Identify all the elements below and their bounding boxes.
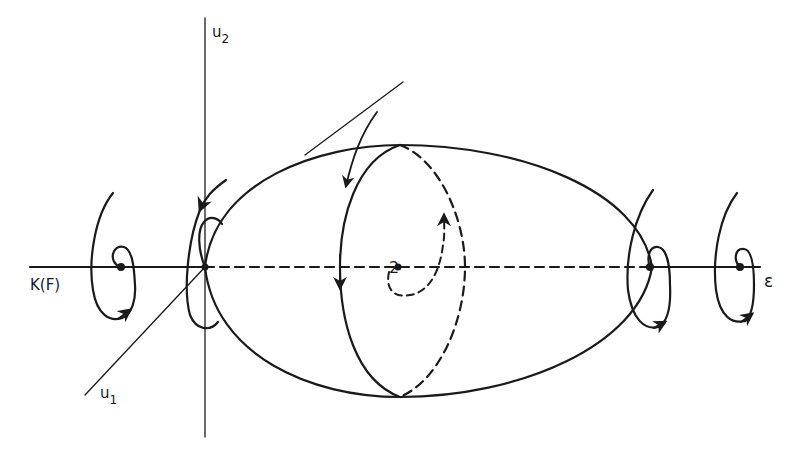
far-right-spiral [715, 193, 754, 322]
u2-label: u2 [212, 23, 229, 46]
center-dashed-spiral [388, 215, 444, 296]
center-label: 2 [389, 258, 399, 277]
far-left-spiral [91, 193, 135, 319]
diagram-svg: u2 u1 K(F) ε 2 [0, 0, 797, 449]
kf-label: K(F) [30, 276, 60, 294]
u1-label: u1 [100, 384, 117, 407]
diagram-canvas: u2 u1 K(F) ε 2 [0, 0, 797, 449]
back-meridian [400, 145, 465, 397]
ellipsoid-outline [205, 145, 652, 397]
epsilon-label: ε [764, 271, 773, 291]
